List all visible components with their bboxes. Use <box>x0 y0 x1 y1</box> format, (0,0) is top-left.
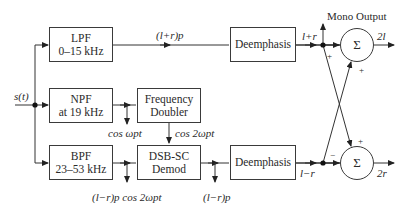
deemph-bottom-output-label: l−r <box>300 167 315 179</box>
demod-output-label: (l−r)p <box>203 191 231 203</box>
bpf-output-label: (l−r)p cos 2ωpt <box>92 191 162 203</box>
pilot-label: cos ωpt <box>108 127 142 139</box>
sigma-icon: Σ <box>353 37 361 53</box>
deemph-top-output-label: l+r <box>302 30 317 42</box>
deemphasis-top-block: Deemphasis <box>230 27 296 62</box>
lpf-block: LPF 0–15 kHz <box>49 27 113 62</box>
sum-bottom-sign-2: + <box>358 137 363 146</box>
sigma-icon: Σ <box>353 155 361 171</box>
bpf-range: 23–53 kHz <box>56 163 107 176</box>
sum-top-sign-1: + <box>327 52 332 61</box>
lpf-title: LPF <box>71 32 91 45</box>
npf-title: NPF <box>70 93 91 106</box>
deemphasis-bottom-label: Deemphasis <box>235 156 291 169</box>
doubled-pilot-label: cos 2ωpt <box>175 127 214 139</box>
bpf-block: BPF 23–53 kHz <box>49 145 113 180</box>
lpf-output-label: (l+r)p <box>156 29 184 41</box>
frequency-doubler-block: Frequency Doubler <box>137 88 201 123</box>
sum-bottom-sign-1: − <box>330 151 335 160</box>
demod-line2: Demod <box>152 163 186 176</box>
sum-top-sign-2: + <box>359 66 364 75</box>
lpf-range: 0–15 kHz <box>58 45 103 58</box>
npf-freq: at 19 kHz <box>59 106 104 119</box>
sum-bottom-output-label: 2r <box>377 167 387 179</box>
dsb-sc-demod-block: DSB-SC Demod <box>137 145 201 180</box>
demod-line1: DSB-SC <box>149 150 189 163</box>
deemphasis-bottom-block: Deemphasis <box>230 145 296 180</box>
deemphasis-top-label: Deemphasis <box>235 38 291 51</box>
sum-top-output-label: 2l <box>377 30 386 42</box>
input-label: s(t) <box>14 90 29 102</box>
doubler-line1: Frequency <box>145 93 194 106</box>
summer-top: Σ <box>340 28 374 62</box>
doubler-line2: Doubler <box>150 106 188 119</box>
bpf-title: BPF <box>71 150 91 163</box>
npf-block: NPF at 19 kHz <box>49 88 113 123</box>
summer-bottom: Σ <box>340 146 374 180</box>
mono-output-label: Mono Output <box>327 10 387 22</box>
